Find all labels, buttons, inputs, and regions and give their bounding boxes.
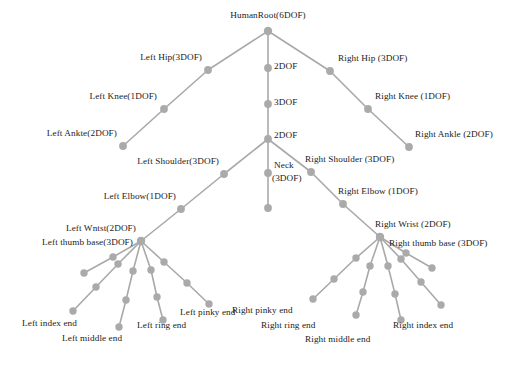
label-left-knee: Left Knee(1DOF) [89,91,157,101]
joint-left-ring-0 [147,266,154,273]
label-left-thumb-base: Left thumb base(3DOF) [42,237,133,247]
label-left-ring-end: Left ring end [137,320,186,330]
joint-spine2 [264,100,272,108]
joint-root [264,27,272,35]
bone-left-middle-1 [126,271,133,300]
label-left-pinky-end: Left pinky end [180,307,236,317]
label-right-knee: Right Knee (1DOF) [375,91,450,101]
joint-right-thumb-0 [402,249,409,256]
bone-left-index-2 [73,287,96,311]
label-right-elbow: Right Elbow (1DOF) [338,186,418,196]
joint-left-middle-1 [122,296,129,303]
label-left-shoulder: Left Shoulder(3DOF) [137,156,219,166]
joint-left-ring-1 [153,293,160,300]
bone-right-middle-1 [388,266,395,294]
joint-left-pinky-1 [183,279,190,286]
skeleton-hierarchy-diagram: HumanRoot(6DOF) 2DOF 3DOF 2DOF Neck (3DO… [0,0,518,369]
bone-right-pinky-2 [313,279,334,299]
joint-lknee [160,105,168,113]
label-left-wrist: Left Wntst(2DOF) [66,223,136,233]
joint-right-pinky-2 [309,295,316,302]
label-right-wrist: Right Wrist (2DOF) [375,219,451,229]
joint-right-wrist [376,233,384,241]
bone-right-ring-1 [363,266,370,292]
joint-left-thumb-1 [80,269,87,276]
label-right-middle-end: Right middle end [305,334,370,344]
label-right-ring-end: Right ring end [261,320,315,330]
joint-left-index-1 [92,283,99,290]
joint-spine3 [264,135,272,143]
joint-lhip [204,66,212,74]
joint-left-middle-0 [129,267,136,274]
bone-lhip-lknee [164,70,208,109]
label-right-index-end: Right index end [393,320,453,330]
joint-right-pinky-1 [330,275,337,282]
bone-lelbow-lwrist [141,209,181,241]
label-neck: Neck [274,160,294,170]
bone-right-thumb-1 [406,253,432,268]
label-left-ankle: Left Ankte(2DOF) [47,128,117,138]
bone-left-pinky-2 [187,283,209,304]
joint-rknee [364,105,372,113]
bone-left-middle-2 [119,300,126,327]
label-left-index-end: Left index end [22,318,77,328]
bone-right-pinky-1 [334,258,356,279]
bone-right-index-2 [421,282,441,305]
joint-lelbow [177,205,185,213]
label-right-shoulder: Right Shoulder (3DOF) [305,154,394,164]
joint-neck [264,169,272,177]
bone-left-ring-1 [151,270,157,297]
joint-rshoulder [307,168,315,176]
label-left-hip: Left Hip(3DOF) [140,52,202,62]
bone-right-middle-2 [395,294,401,320]
label-right-hip: Right Hip (3DOF) [338,53,408,63]
joint-left-index-2 [69,307,76,314]
joint-right-pinky-0 [352,254,359,261]
label-right-thumb-base: Right thumb base (3DOF) [389,238,488,248]
label-right-ankle: Right Ankle (2DOF) [415,129,493,139]
bone-root-lhip [208,31,268,70]
bone-lshoulder-lelbow [181,174,224,209]
joint-spine1 [264,64,272,72]
joint-right-thumb-1 [428,264,435,271]
label-spine-3dof: 3DOF [274,97,297,107]
joint-right-middle-1 [391,290,398,297]
joint-rhip [326,67,334,75]
joint-right-ring-1 [359,288,366,295]
label-root: HumanRoot(6DOF) [230,10,306,20]
label-left-elbow: Left Elbow(1DOF) [104,191,176,201]
bone-spine3-lshoulder [224,139,268,174]
joint-left-middle-2 [115,323,122,330]
nodes-layer [69,27,444,331]
bone-left-index-1 [96,264,118,287]
bone-lknee-lankle [123,109,164,146]
joint-rankle [405,143,413,151]
joint-right-middle-0 [384,262,391,269]
bone-rhip-rknee [330,71,368,109]
joint-right-ring-0 [366,262,373,269]
joint-head [264,204,272,212]
bone-left-pinky-1 [164,262,187,283]
bone-rknee-rankle [368,109,409,147]
label-right-pinky-end: Right pinky end [232,305,293,315]
label-spine-2dof-upper: 2DOF [274,61,297,71]
bone-left-thumb-1 [84,257,113,273]
joint-left-wrist [137,237,145,245]
joint-left-index-0 [114,260,121,267]
label-neck-dof: (3DOF) [272,173,302,183]
joint-relbow [339,200,347,208]
joint-lshoulder [220,170,228,178]
label-spine-2dof-lower: 2DOF [274,130,297,140]
joint-left-thumb-0 [109,253,116,260]
joint-left-pinky-0 [160,258,167,265]
joint-right-index-1 [417,278,424,285]
label-left-middle-end: Left middle end [62,333,122,343]
joint-right-index-2 [437,301,444,308]
edges-layer [73,31,441,327]
bone-right-index-1 [401,259,421,282]
joint-lankle [119,142,127,150]
joint-right-ring-2 [352,311,359,318]
joint-right-index-0 [397,255,404,262]
